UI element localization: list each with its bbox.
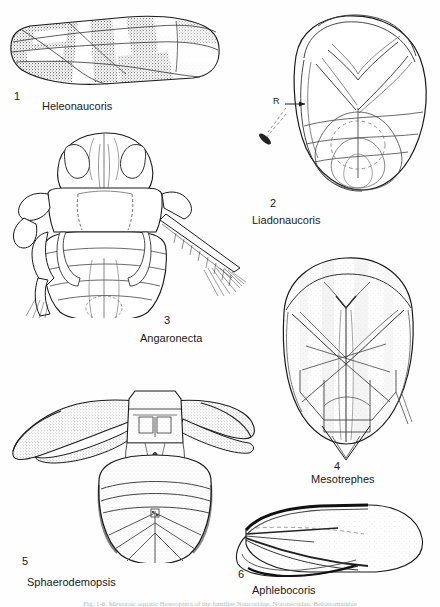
figure-5-taxon-label: Sphaerodemopsis: [27, 577, 116, 588]
figure-1-number: 1: [14, 91, 20, 102]
figure-plate: 1 Heleonaucoris: [0, 0, 440, 607]
figure-6-illustration: [218, 500, 438, 580]
figure-6-taxon-label: Aphlebocoris: [252, 585, 316, 596]
plate-bottom-caption: Fig. 1-6. Mesozoic aquatic Heteroptera o…: [0, 600, 440, 607]
figure-3-number: 3: [164, 315, 170, 326]
figure-6-number: 6: [238, 569, 244, 580]
figure-4-illustration: [262, 252, 437, 464]
figure-4-number: 4: [334, 461, 340, 472]
figure-5-number: 5: [22, 556, 28, 567]
figure-3-taxon-label: Angaronecta: [140, 333, 202, 344]
figure-2-illustration: [258, 8, 438, 198]
figure-4-taxon-label: Mesotrephes: [311, 474, 375, 485]
figure-2-number: 2: [270, 198, 276, 209]
figure-1-taxon-label: Heleonaucoris: [42, 101, 112, 112]
figure-2-vein-label-r: R: [273, 97, 280, 106]
figure-3-illustration: [8, 128, 248, 318]
figure-1-illustration: [8, 12, 223, 92]
figure-2-taxon-label: Liadonaucoris: [252, 215, 321, 226]
